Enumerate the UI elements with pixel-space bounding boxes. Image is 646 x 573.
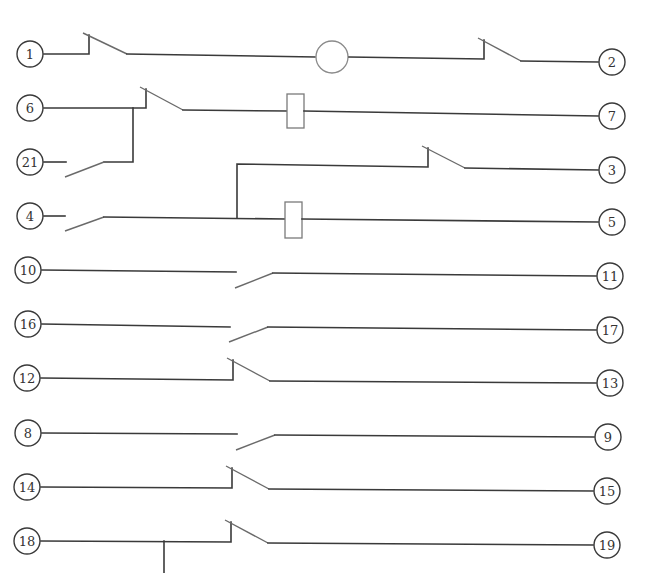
terminal-4: 4 [17,203,43,229]
circuit-row-16-17 [42,324,596,342]
terminal-1: 1 [17,41,43,67]
no-contact-blade [65,162,104,177]
lamp-icon [316,41,348,73]
terminal-label: 21 [22,155,39,170]
terminal-7: 7 [599,103,625,129]
wire [270,381,596,383]
wire [237,148,428,218]
terminal-label: 3 [608,163,616,178]
relay-coil-icon [285,202,302,238]
wire [465,168,598,170]
relay-coil-icon [287,94,304,128]
terminals: 1 2 6 7 21 3 4 5 10 11 16 17 12 13 8 9 1… [14,41,625,558]
wire [41,522,231,542]
no-contact-blade [65,217,104,231]
terminal-label: 14 [19,480,36,495]
circuit-row-8-9 [42,433,594,450]
wire [127,54,315,57]
terminal-label: 12 [19,371,36,386]
wire [273,273,596,276]
wiring-diagram: 1 2 6 7 21 3 4 5 10 11 16 17 12 13 8 9 1… [0,0,646,573]
terminal-label: 5 [608,215,616,230]
wire [44,35,89,54]
terminal-5: 5 [599,209,625,235]
terminal-14: 14 [14,474,40,500]
terminal-6: 6 [17,95,43,121]
terminal-label: 4 [26,209,34,224]
terminal-label: 15 [599,484,616,499]
no-contact-blade [229,327,268,342]
circuit-row-10-11 [42,270,596,288]
terminal-label: 6 [26,101,34,116]
no-contact-blade [235,273,273,288]
terminal-label: 17 [602,323,619,338]
terminal-8: 8 [15,420,41,446]
circuit-row-4-5-3 [44,146,598,238]
terminal-label: 9 [604,430,612,445]
terminal-label: 10 [20,263,37,278]
terminal-label: 19 [599,538,616,553]
circuit-row-18-19 [41,520,593,573]
terminal-19: 19 [594,532,620,558]
terminal-label: 11 [602,269,619,284]
circuit-row-1-2 [44,33,598,73]
wire [269,489,593,491]
terminal-13: 13 [597,370,623,396]
wire [42,433,237,434]
terminal-label: 16 [20,317,37,332]
circuit-row-12-13 [41,358,596,383]
wire [268,327,596,330]
wire [183,110,287,111]
wire [41,468,232,488]
terminal-18: 18 [14,528,40,554]
wire [104,108,133,162]
wire [44,89,146,108]
terminal-label: 1 [26,47,34,62]
terminal-12: 12 [14,365,40,391]
terminal-label: 13 [602,376,619,391]
terminal-15: 15 [594,478,620,504]
wire [302,219,598,222]
wire [42,270,236,272]
terminal-label: 7 [608,109,616,124]
terminal-3: 3 [599,157,625,183]
no-contact-blade [236,435,275,450]
terminal-label: 18 [19,534,36,549]
terminal-2: 2 [599,49,625,75]
circuit-row-6-7 [44,87,598,177]
wire [268,543,593,545]
wire [349,40,484,59]
circuit-row-14-15 [41,466,593,491]
terminal-9: 9 [595,424,621,450]
terminal-11: 11 [597,263,623,289]
wire [275,435,594,437]
terminal-17: 17 [597,317,623,343]
wire [104,217,285,219]
terminal-label: 2 [608,55,616,70]
terminal-label: 8 [24,426,32,441]
wire [41,360,233,380]
wire [42,324,230,327]
terminal-16: 16 [15,311,41,337]
wire [521,61,598,62]
terminal-10: 10 [15,257,41,283]
terminal-21: 21 [17,149,43,175]
wire [304,111,598,116]
